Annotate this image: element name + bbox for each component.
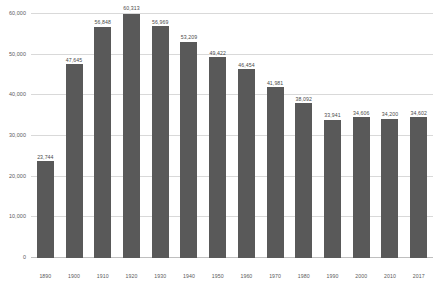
bar[interactable] xyxy=(295,103,312,258)
x-tick-slot: 1990 xyxy=(318,264,347,276)
x-axis-tick-label: 1980 xyxy=(298,273,310,279)
x-tick-slot: 1940 xyxy=(175,264,204,276)
y-axis-tick-label: 60,000 xyxy=(9,10,26,16)
bar-slot: 34,602 xyxy=(404,14,433,258)
x-tick-slot: 2010 xyxy=(376,264,405,276)
x-tick-slot: 1910 xyxy=(88,264,117,276)
x-axis-tick-label: 1970 xyxy=(269,273,281,279)
bar-slot: 33,941 xyxy=(318,14,347,258)
x-axis-tick-label: 1920 xyxy=(126,273,138,279)
x-tick-slot: 1980 xyxy=(289,264,318,276)
bar-value-label: 47,645 xyxy=(66,57,82,63)
x-axis-tick-label: 2010 xyxy=(384,273,396,279)
x-axis-tick-label: 1950 xyxy=(212,273,224,279)
bar-value-label: 60,313 xyxy=(123,5,139,11)
x-tick-slot: 1900 xyxy=(60,264,89,276)
x-axis-labels: 1890190019101920193019401950196019701980… xyxy=(31,264,433,276)
bars-group: 23,74447,64556,84860,31356,96953,20949,4… xyxy=(31,14,433,258)
y-axis-tick-label: 20,000 xyxy=(9,173,26,179)
x-axis-tick-label: 1900 xyxy=(68,273,80,279)
bar-chart: 010,00020,00030,00040,00050,00060,000 23… xyxy=(0,0,439,294)
bar[interactable] xyxy=(238,69,255,258)
bar[interactable] xyxy=(267,87,284,258)
bar[interactable] xyxy=(180,42,197,258)
bar[interactable] xyxy=(66,64,83,258)
x-axis-tick-label: 1910 xyxy=(97,273,109,279)
x-tick-slot: 2017 xyxy=(404,264,433,276)
bar-slot: 46,454 xyxy=(232,14,261,258)
x-tick-slot: 1890 xyxy=(31,264,60,276)
x-tick-slot: 1960 xyxy=(232,264,261,276)
x-tick-slot: 1970 xyxy=(261,264,290,276)
bar-value-label: 23,744 xyxy=(37,154,53,160)
bar-value-label: 34,602 xyxy=(410,110,426,116)
bar-slot: 49,422 xyxy=(203,14,232,258)
x-axis-tick-label: 1960 xyxy=(240,273,252,279)
bar-slot: 38,092 xyxy=(289,14,318,258)
x-tick-slot: 1920 xyxy=(117,264,146,276)
bar[interactable] xyxy=(324,120,341,258)
bar-slot: 34,200 xyxy=(376,14,405,258)
y-axis-tick-label: 30,000 xyxy=(9,132,26,138)
x-axis-tick-label: 1990 xyxy=(327,273,339,279)
bar-slot: 34,606 xyxy=(347,14,376,258)
bar-value-label: 38,092 xyxy=(296,96,312,102)
x-axis-tick-label: 2017 xyxy=(413,273,425,279)
x-axis-tick-label: 1940 xyxy=(183,273,195,279)
bar[interactable] xyxy=(94,27,111,258)
bar-value-label: 46,454 xyxy=(238,62,254,68)
bar[interactable] xyxy=(381,119,398,258)
y-axis-tick-label: 50,000 xyxy=(9,51,26,57)
bar-slot: 56,848 xyxy=(88,14,117,258)
bar-value-label: 53,209 xyxy=(181,34,197,40)
bar[interactable] xyxy=(410,117,427,258)
bar-slot: 60,313 xyxy=(117,14,146,258)
bar[interactable] xyxy=(37,161,54,258)
bar-value-label: 33,941 xyxy=(324,112,340,118)
bar-value-label: 56,848 xyxy=(95,19,111,25)
bar[interactable] xyxy=(209,57,226,258)
bar-value-label: 41,981 xyxy=(267,80,283,86)
x-axis-tick-label: 2000 xyxy=(355,273,367,279)
plot-area: 010,00020,00030,00040,00050,00060,000 23… xyxy=(31,14,433,258)
bar-value-label: 34,200 xyxy=(382,111,398,117)
bar-value-label: 56,969 xyxy=(152,19,168,25)
bar-slot: 41,981 xyxy=(261,14,290,258)
bar-slot: 23,744 xyxy=(31,14,60,258)
bar-value-label: 34,606 xyxy=(353,110,369,116)
x-axis-tick-label: 1890 xyxy=(39,273,51,279)
x-axis-tick-label: 1930 xyxy=(154,273,166,279)
bar-slot: 56,969 xyxy=(146,14,175,258)
x-tick-slot: 1930 xyxy=(146,264,175,276)
x-tick-slot: 2000 xyxy=(347,264,376,276)
y-axis-tick-label: 0 xyxy=(23,254,26,260)
bar-value-label: 49,422 xyxy=(209,50,225,56)
bar[interactable] xyxy=(353,117,370,258)
x-tick-slot: 1950 xyxy=(203,264,232,276)
bar-slot: 53,209 xyxy=(175,14,204,258)
y-axis-tick-label: 10,000 xyxy=(9,213,26,219)
bar[interactable] xyxy=(152,26,169,258)
y-axis-tick-label: 40,000 xyxy=(9,91,26,97)
bar-slot: 47,645 xyxy=(60,14,89,258)
bar[interactable] xyxy=(123,14,140,258)
